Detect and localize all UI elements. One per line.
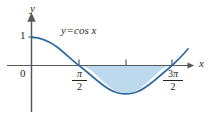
fraction-denominator: 2 [163,82,183,93]
plot-canvas [0,0,215,118]
fraction-numerator-symbol: π [173,68,178,79]
shaded-area-under-curve [79,66,172,94]
curve-label-equals: = [66,24,74,36]
curve-label-expression: cos x [74,24,96,36]
fraction-denominator: 2 [72,82,87,93]
x-tick-label-pi-over-2: π 2 [72,69,87,92]
curve-equation-label: y=cos x [61,25,96,36]
fraction-numerator: 3π [163,69,183,80]
fraction-numerator: π [72,69,87,80]
y-axis-label: y [30,3,35,14]
origin-label-zero: 0 [20,68,26,79]
y-tick-label-one: 1 [20,30,26,41]
x-axis-label: x [199,58,204,69]
cosine-integral-figure: y x 1 0 y=cos x π 2 3π 2 [0,0,215,118]
x-tick-label-3pi-over-2: 3π 2 [163,69,183,92]
